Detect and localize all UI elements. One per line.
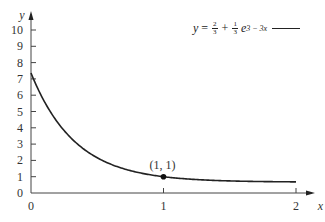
x-tick-label: 1 <box>161 199 167 213</box>
y-tick-label: 7 <box>17 72 23 86</box>
legend: y = 2 3 + 1 3 e3 − 3x <box>193 21 300 36</box>
fraction-one-third: 1 3 <box>232 21 238 36</box>
legend-plus: + <box>222 21 229 36</box>
y-tick-label: 0 <box>17 186 23 200</box>
y-tick-label: 5 <box>17 105 23 119</box>
y-axis-arrow-icon <box>29 11 34 20</box>
y-tick-label: 8 <box>17 56 23 70</box>
point-marker <box>161 174 167 180</box>
legend-equals: = <box>201 21 208 36</box>
y-tick-label: 4 <box>17 121 23 135</box>
legend-y: y <box>193 21 198 36</box>
x-axis-arrow-icon <box>306 191 315 196</box>
fraction-two-thirds: 2 3 <box>212 21 218 36</box>
x-tick-label: 2 <box>293 199 299 213</box>
y-tick-label: 9 <box>17 39 23 53</box>
y-tick-label: 3 <box>17 137 23 151</box>
y-tick-label: 10 <box>11 23 23 37</box>
y-tick-label: 2 <box>17 153 23 167</box>
legend-line-sample <box>272 28 300 29</box>
point-label: (1, 1) <box>150 158 176 172</box>
y-tick-label: 1 <box>17 170 23 184</box>
x-axis-label: x <box>317 199 324 213</box>
legend-exponent: 3 − 3x <box>246 24 267 33</box>
y-tick-label: 6 <box>17 88 23 102</box>
x-tick-label: 0 <box>28 199 34 213</box>
y-axis-label: y <box>18 8 25 22</box>
